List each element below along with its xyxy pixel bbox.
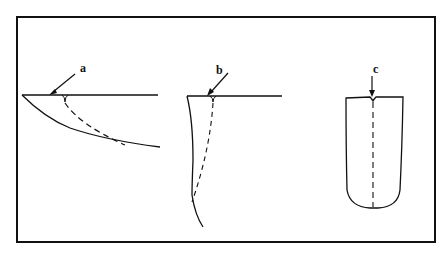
label-c: c [373, 62, 379, 76]
label-a: a [80, 61, 86, 75]
arrow-a [53, 74, 75, 92]
crack-profile-c [346, 97, 403, 208]
notch-b [210, 96, 216, 102]
crack-profile-a [22, 95, 160, 147]
crack-diagram: a b c [0, 0, 448, 258]
panel-c: c [346, 62, 403, 208]
notch-a [62, 95, 68, 102]
label-b: b [216, 63, 223, 77]
arrowhead-c [369, 90, 375, 97]
dashed-path-b [192, 103, 213, 202]
panel-a: a [22, 61, 160, 147]
panel-b: b [187, 63, 282, 227]
crack-profile-b [187, 96, 203, 227]
dashed-path-a [65, 103, 125, 145]
